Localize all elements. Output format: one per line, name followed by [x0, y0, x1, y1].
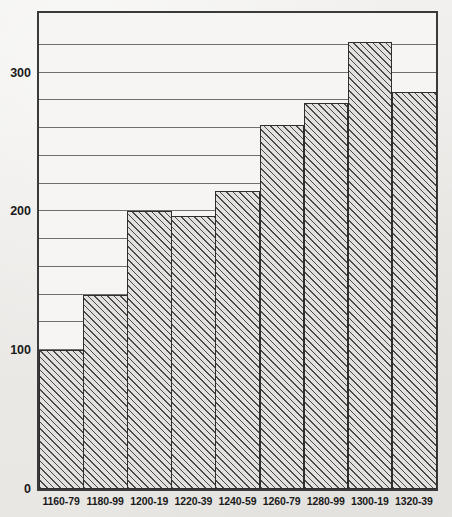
y-tick-label-300: 300: [0, 66, 31, 80]
x-tick-label-1200-19: 1200-19: [127, 495, 171, 507]
x-tick-label-1300-19: 1300-19: [348, 495, 392, 507]
bar-1200-19[interactable]: [127, 211, 172, 489]
bar-chart-figure: 0100200300 1160-791180-991200-191220-391…: [0, 0, 452, 517]
plot-area: [37, 11, 438, 491]
bars-group: [39, 13, 436, 489]
bar-1240-59[interactable]: [215, 191, 260, 489]
bar-1180-99[interactable]: [83, 295, 128, 489]
x-tick-label-1260-79: 1260-79: [260, 495, 304, 507]
x-tick-label-1320-39: 1320-39: [392, 495, 436, 507]
x-tick-label-1160-79: 1160-79: [39, 495, 83, 507]
x-tick-label-1180-99: 1180-99: [83, 495, 127, 507]
bar-1260-79[interactable]: [260, 125, 305, 489]
bar-1220-39[interactable]: [171, 216, 216, 489]
x-tick-label-1280-99: 1280-99: [304, 495, 348, 507]
bar-1280-99[interactable]: [304, 103, 349, 489]
bar-1300-19[interactable]: [348, 42, 393, 489]
x-tick-label-1240-59: 1240-59: [215, 495, 259, 507]
y-tick-label-100: 100: [0, 343, 31, 357]
y-tick-label-200: 200: [0, 204, 31, 218]
x-tick-label-1220-39: 1220-39: [171, 495, 215, 507]
bar-1320-39[interactable]: [392, 92, 437, 489]
bar-1160-79[interactable]: [39, 350, 84, 489]
y-tick-label-0: 0: [0, 482, 31, 496]
